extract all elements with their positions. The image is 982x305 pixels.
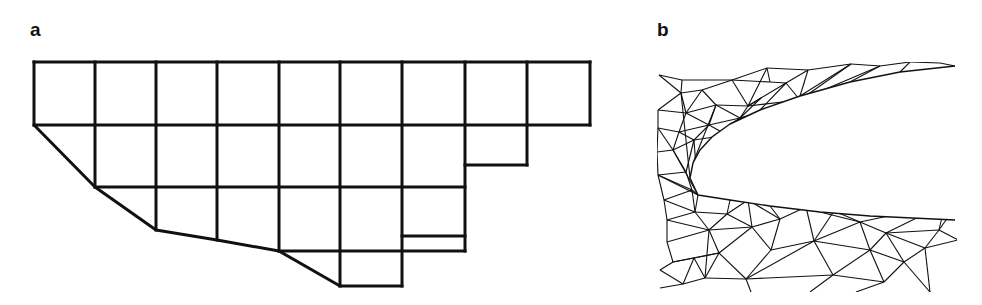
mesh-edge — [683, 278, 705, 284]
mesh-edge — [884, 262, 904, 282]
mesh-edge — [810, 275, 833, 292]
mesh-edge — [833, 275, 884, 282]
mesh-edge — [709, 227, 752, 230]
panel-b-triangular-mesh — [657, 60, 982, 292]
mesh-edge — [709, 230, 719, 253]
mesh-edge — [658, 172, 686, 175]
mesh-edge — [702, 90, 716, 105]
mesh-edge — [719, 253, 746, 279]
mesh-edge — [870, 250, 904, 262]
mesh-edge — [752, 219, 780, 227]
mesh-edge — [770, 206, 780, 219]
mesh-edge — [716, 105, 748, 106]
mesh-edge — [746, 275, 833, 279]
mesh-edge — [851, 64, 880, 66]
mesh-edge — [814, 241, 833, 275]
mesh-edge — [870, 250, 884, 282]
mesh-edge — [886, 233, 925, 248]
mesh-edge — [664, 200, 667, 220]
mesh-edge — [746, 279, 751, 292]
mesh-edge — [910, 62, 940, 63]
mesh-edge — [667, 230, 709, 242]
mesh-edge — [748, 200, 752, 227]
mesh-edge — [771, 241, 814, 250]
mesh-edge — [709, 214, 727, 230]
mesh-edge — [870, 233, 886, 250]
mesh-edge — [939, 230, 958, 240]
mesh-edge — [856, 282, 884, 292]
mesh-edge — [732, 80, 748, 106]
mesh-edge — [886, 230, 939, 233]
mesh-edge — [660, 262, 673, 270]
mesh-edge — [705, 278, 746, 279]
mesh-edge — [904, 262, 930, 292]
mesh-edge — [664, 190, 692, 200]
mesh-edge — [658, 128, 673, 150]
mesh-edge — [694, 258, 705, 278]
mesh-edge — [860, 222, 870, 250]
mesh-edge — [660, 270, 683, 284]
mesh-edge — [746, 250, 771, 279]
mesh-edge — [695, 212, 727, 214]
mesh-edge — [657, 152, 658, 175]
mesh-edge — [667, 212, 695, 220]
mesh-edge — [679, 125, 709, 132]
mesh-edge — [657, 150, 673, 152]
mesh-edge — [658, 128, 679, 132]
mesh-edge — [657, 128, 658, 152]
mesh-edge — [658, 93, 681, 110]
mesh-edge — [770, 82, 786, 83]
mesh-edge — [658, 175, 664, 200]
mesh-edge — [806, 207, 814, 241]
body-fill — [690, 60, 982, 220]
mesh-edge — [716, 105, 740, 118]
mesh-edge — [681, 90, 702, 93]
mesh-edge — [667, 242, 673, 262]
panel-a-structured-grid — [34, 62, 590, 286]
mesh-edge — [732, 80, 770, 82]
mesh-edge — [719, 227, 752, 253]
mesh-edge — [673, 258, 694, 262]
mesh-edge — [660, 284, 683, 288]
mesh-edge — [658, 110, 686, 113]
figure-canvas — [0, 0, 982, 305]
mesh-edge — [746, 241, 814, 279]
mesh-edge — [705, 230, 709, 278]
mesh-edge — [664, 200, 695, 212]
mesh-edge — [679, 132, 694, 140]
mesh-edge — [833, 250, 870, 275]
mesh-edge — [880, 62, 910, 66]
mesh-edge — [695, 195, 698, 212]
mesh-edge — [702, 80, 732, 90]
mesh-edge — [886, 233, 904, 262]
mesh-edge — [925, 248, 930, 292]
cut-boundary — [34, 125, 340, 286]
mesh-edge — [727, 214, 752, 227]
mesh-edge — [771, 219, 780, 250]
mesh-edge — [767, 68, 770, 82]
mesh-edge — [686, 113, 709, 125]
mesh-edge — [767, 68, 808, 70]
mesh-edge — [752, 227, 771, 250]
mesh-edge — [683, 258, 694, 284]
mesh-edge — [904, 248, 925, 262]
mesh-edge — [681, 80, 682, 93]
mesh-edge — [814, 241, 870, 250]
